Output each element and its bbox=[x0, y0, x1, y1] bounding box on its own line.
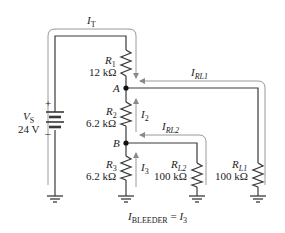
node-a-dot bbox=[123, 85, 128, 90]
resistor-r3-icon bbox=[121, 156, 131, 180]
voltage-divider-circuit: + VS 24 V – R1 12 kΩ R2 6.2 kΩ R3 6.2 kΩ… bbox=[0, 0, 285, 233]
rl1-value-label: 100 kΩ bbox=[215, 170, 248, 182]
battery-symbol bbox=[46, 112, 64, 127]
source-minus-label: – bbox=[44, 127, 51, 139]
current-i2-label: I2 bbox=[140, 108, 149, 123]
source-plus-label: + bbox=[45, 97, 51, 109]
resistor-rl2-icon bbox=[192, 163, 202, 187]
ground-icon bbox=[189, 196, 205, 202]
ground-icon bbox=[118, 196, 134, 202]
bleeder-caption: IBLEEDER = I3 bbox=[127, 210, 187, 225]
node-b-dot bbox=[123, 140, 128, 145]
ground-icon bbox=[47, 196, 63, 202]
node-b-label: B bbox=[113, 137, 120, 149]
current-i3-label: I3 bbox=[140, 161, 149, 176]
ground-icon bbox=[250, 196, 266, 202]
resistor-rl1-icon bbox=[253, 163, 263, 187]
resistor-r2-icon bbox=[121, 102, 131, 126]
current-total-label: IT bbox=[86, 14, 96, 29]
source-value-label: 24 V bbox=[18, 123, 40, 135]
current-rl2-label: IRL2 bbox=[161, 120, 179, 135]
r1-value-label: 12 kΩ bbox=[89, 66, 116, 78]
r3-value-label: 6.2 kΩ bbox=[86, 170, 116, 182]
r2-value-label: 6.2 kΩ bbox=[86, 117, 116, 129]
rl2-value-label: 100 kΩ bbox=[154, 170, 187, 182]
node-a-label: A bbox=[112, 82, 120, 94]
current-rl1-label: IRL1 bbox=[190, 66, 208, 81]
resistor-r1-icon bbox=[121, 50, 131, 76]
